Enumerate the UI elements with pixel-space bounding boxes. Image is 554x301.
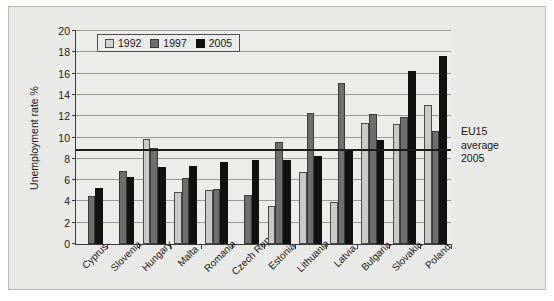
y-tick-label: 14 [58, 89, 70, 101]
x-label-cell: Hungary [138, 250, 169, 300]
bar-1997 [307, 113, 315, 244]
x-tick-label: Cyprus [79, 241, 109, 271]
legend-item-1997: 1997 [150, 37, 186, 49]
bar-1997 [182, 178, 190, 244]
eu15-annotation-line-2: average [461, 139, 535, 153]
bar-group [201, 31, 232, 244]
y-tick-label: 20 [58, 25, 70, 37]
bar-2005 [95, 188, 103, 244]
legend-swatch-1997 [150, 39, 159, 48]
x-label-cell: Czech Rep [231, 250, 262, 300]
x-tick-label: Latvia [331, 243, 358, 270]
eu15-average-line [76, 149, 451, 151]
bar-1997 [213, 189, 221, 244]
eu15-annotation-line-3: 2005 [461, 152, 535, 166]
bar-group [139, 31, 170, 244]
bar-group [170, 31, 201, 244]
y-tick-label: 12 [58, 110, 70, 122]
bar-1992 [330, 202, 338, 244]
x-label-cell: Poland [419, 250, 450, 300]
bar-group [420, 31, 451, 244]
bar-group [264, 31, 295, 244]
eu15-average-annotation: EU15 average 2005 [461, 125, 535, 166]
bar-1997 [119, 171, 127, 244]
bar-2005 [189, 166, 197, 244]
legend-item-2005: 2005 [196, 37, 232, 49]
bar-1992 [205, 190, 213, 244]
bar-2005 [220, 162, 228, 244]
x-tick-label: Poland [423, 241, 453, 271]
legend-label-2005: 2005 [209, 37, 232, 49]
x-label-cell: Romania [200, 250, 231, 300]
bar-group [295, 31, 326, 244]
bar-1997 [275, 142, 283, 244]
x-tick-mark [201, 244, 202, 249]
bar-group [389, 31, 420, 244]
plot-area: 02468101214161820 [75, 31, 451, 245]
bar-groups [76, 31, 451, 244]
x-label-cell: Slovakia [388, 250, 419, 300]
bar-1997 [369, 114, 377, 244]
bar-group [326, 31, 357, 244]
legend-label-1997: 1997 [163, 37, 186, 49]
y-tick-label: 2 [64, 217, 70, 229]
y-tick-label: 0 [64, 238, 70, 250]
bar-2005 [283, 160, 291, 244]
bar-2005 [158, 167, 166, 244]
bar-1997 [400, 117, 408, 244]
x-label-cell: Cyprus [75, 250, 106, 300]
legend-label-1992: 1992 [118, 37, 141, 49]
bar-1997 [88, 196, 96, 244]
bar-1997 [150, 148, 158, 244]
x-label-cell: Malta [169, 250, 200, 300]
x-label-cell: Slovenia [106, 250, 137, 300]
x-tick-label: Malta [176, 243, 201, 268]
bar-group [76, 31, 107, 244]
y-tick-label: 10 [58, 132, 70, 144]
bar-1997 [244, 195, 252, 244]
legend-item-1992: 1992 [105, 37, 141, 49]
bar-2005 [314, 156, 322, 244]
y-tick-label: 6 [64, 174, 70, 186]
bar-1992 [361, 123, 369, 244]
bar-2005 [377, 140, 385, 244]
eu15-annotation-line-1: EU15 [461, 125, 535, 139]
y-axis-title: Unemployment rate % [27, 31, 41, 244]
y-tick-label: 8 [64, 153, 70, 165]
bar-1992 [143, 139, 151, 244]
x-label-cell: Bulgaria [356, 250, 387, 300]
chart-figure: Unemployment rate % 02468101214161820 Cy… [8, 6, 546, 290]
bar-2005 [252, 160, 260, 244]
legend-swatch-1992 [105, 39, 114, 48]
bar-group [232, 31, 263, 244]
y-tick-label: 16 [58, 68, 70, 80]
bar-1992 [174, 192, 182, 244]
bar-group [107, 31, 138, 244]
bar-1992 [393, 124, 401, 244]
chart-legend: 1992 1997 2005 [97, 34, 240, 52]
bar-group [357, 31, 388, 244]
x-axis-labels: CyprusSloveniaHungaryMaltaRomaniaCzech R… [75, 250, 450, 300]
bar-2005 [345, 149, 353, 244]
bar-1997 [432, 131, 440, 244]
y-tick-label: 4 [64, 195, 70, 207]
bar-1997 [338, 83, 346, 244]
bar-1992 [424, 105, 432, 245]
x-label-cell: Estonia [263, 250, 294, 300]
bar-1992 [268, 206, 276, 244]
y-tick-label: 18 [58, 46, 70, 58]
bar-1992 [299, 172, 307, 244]
bar-2005 [127, 177, 135, 244]
bar-2005 [408, 71, 416, 244]
x-label-cell: Latvia [325, 250, 356, 300]
legend-swatch-2005 [196, 39, 205, 48]
x-label-cell: Lithuania [294, 250, 325, 300]
